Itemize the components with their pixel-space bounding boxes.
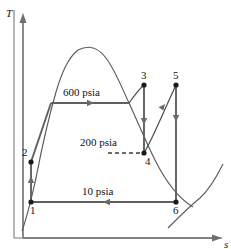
pressure-label-10-psia: 10 psia: [82, 186, 113, 197]
state-point-3: [141, 82, 146, 87]
process-5-6-arrow: [173, 115, 179, 122]
process-6-1-arrow: [103, 199, 110, 205]
state-label-5: 5: [173, 70, 179, 81]
process-1-2-arrow: [28, 176, 34, 183]
state-label-1: 1: [30, 205, 36, 216]
state-label-2: 2: [22, 147, 28, 158]
ts-diagram: T s 600 psia 200 psia 10 psia 1 2 3 4 5 …: [0, 0, 231, 249]
process-superheat-to-3: [129, 85, 144, 103]
process-4-5-arrow: [159, 104, 166, 111]
state-label-4: 4: [145, 156, 151, 167]
pressure-label-200-psia: 200 psia: [80, 137, 117, 148]
process-2-3-arrow: [87, 100, 94, 106]
temperature-axis-label: T: [6, 8, 12, 19]
state-label-6: 6: [173, 205, 179, 216]
entropy-axis-label: s: [224, 239, 228, 249]
state-point-5: [173, 82, 178, 87]
pressure-label-600-psia: 600 psia: [63, 87, 100, 98]
entropy-axis-arrow: [212, 235, 222, 242]
state-label-3: 3: [141, 70, 147, 81]
temperature-axis-arrow: [20, 13, 27, 23]
state-point-2: [28, 159, 33, 164]
process-3-4-arrow: [141, 118, 147, 125]
process-4-5-reheat: [144, 85, 176, 153]
